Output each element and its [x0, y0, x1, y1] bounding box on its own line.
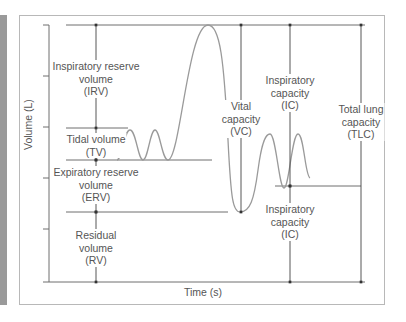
- x-axis-label: Time (s): [184, 286, 222, 298]
- rv-label: Residual volume (RV): [75, 229, 118, 267]
- tlc-label: Total lung capacity (TLC): [338, 103, 385, 141]
- spirogram-svg: [0, 0, 406, 322]
- volume-curve: [117, 25, 310, 212]
- ic-upper-label: Inspiratory capacity (IC): [264, 74, 315, 112]
- y-axis-label: Volume (L): [22, 99, 34, 150]
- ic-lower-label: Inspiratory capacity (IC): [264, 203, 315, 241]
- irv-label: Inspiratory reserve volume (IRV): [52, 60, 141, 98]
- vc-label: Vital capacity (VC): [221, 100, 262, 138]
- tv-label: Tidal volume (TV): [65, 133, 126, 158]
- erv-label: Expiratory reserve volume (ERV): [52, 166, 139, 204]
